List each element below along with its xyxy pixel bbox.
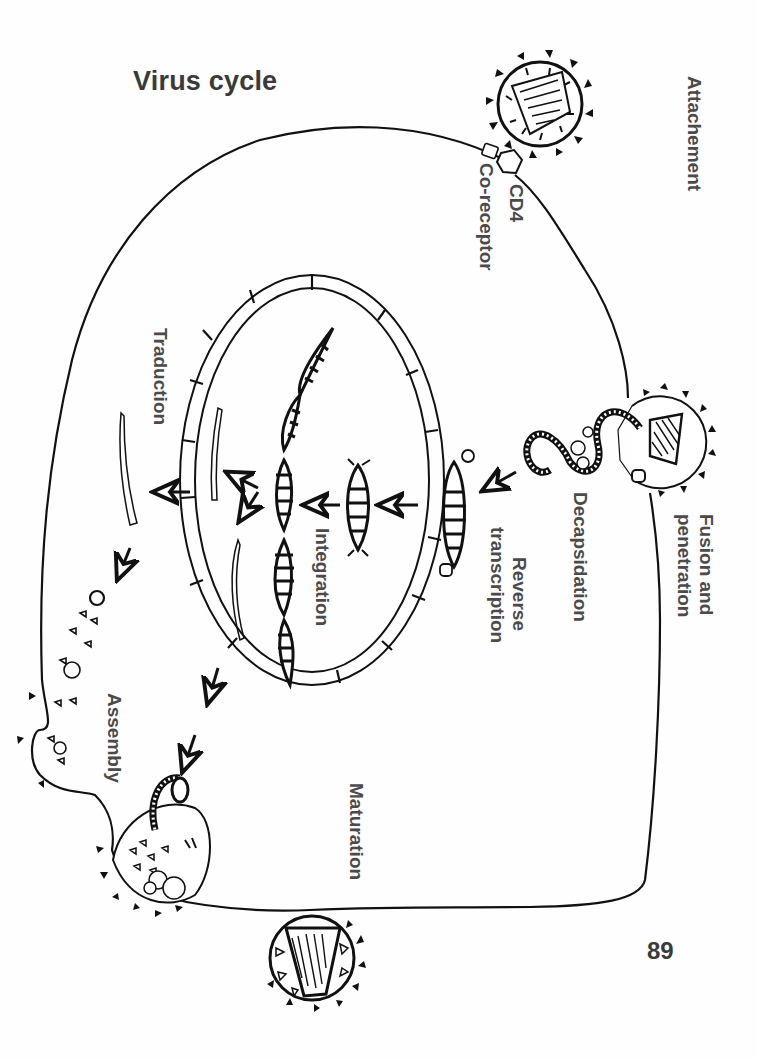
- arrow-to-reverse-transcription: [484, 472, 516, 490]
- diagram-title: Virus cycle: [133, 66, 277, 97]
- virus-cycle-diagram: [0, 0, 757, 1060]
- reverse-transcription-dna: [440, 450, 474, 576]
- label-fusion-penetration: Fusion and penetration: [673, 514, 717, 617]
- assembly-bud: [113, 778, 210, 903]
- arrow-to-assembly-3: [183, 735, 195, 770]
- arrow-transcription-down: [240, 492, 258, 520]
- cd4-shape: [497, 150, 522, 173]
- protein-fragments: [48, 591, 104, 764]
- label-reverse-line1: Reverse: [508, 527, 530, 643]
- label-reverse-line2: transcription: [486, 527, 508, 643]
- label-reverse-transcription: Reverse transcription: [486, 527, 530, 643]
- label-attachment: Attachement: [683, 76, 705, 191]
- arrow-to-assembly-2: [208, 668, 218, 702]
- arrow-transcription-up: [228, 473, 258, 488]
- mature-virion: [267, 916, 366, 1012]
- label-assembly: Assembly: [103, 693, 125, 783]
- label-maturation: Maturation: [345, 783, 367, 880]
- label-cd4: CD4: [505, 184, 527, 222]
- label-traduction: Traduction: [149, 328, 171, 425]
- label-fusion-line2: penetration: [673, 514, 695, 617]
- label-integration: Integration: [311, 528, 333, 626]
- page: Virus cycle 89 Attachement CD4 Co-recept…: [0, 0, 757, 1060]
- viral-dna-nucleus: [347, 459, 370, 556]
- label-decapsidation: Decapsidation: [569, 492, 591, 622]
- page-number: 89: [647, 937, 674, 965]
- fusion-virion: [618, 383, 716, 497]
- co-receptor-shape: [481, 143, 498, 159]
- arrow-to-assembly-1: [118, 548, 130, 578]
- attachment-virion: [486, 50, 593, 158]
- label-fusion-line1: Fusion and: [695, 514, 717, 617]
- label-co-receptor: Co-receptor: [475, 163, 497, 271]
